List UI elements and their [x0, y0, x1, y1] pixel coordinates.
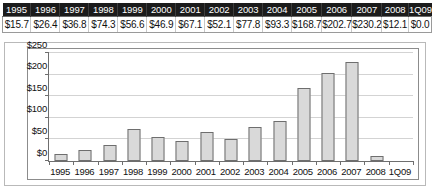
- table-value-cell: $12.1: [382, 17, 409, 33]
- table-value-cell: $93.3: [263, 17, 292, 33]
- table-header-cell: 1997: [60, 3, 89, 17]
- table-header-cell: 1999: [118, 3, 147, 17]
- bar[interactable]: [249, 127, 262, 161]
- table-header-cell: 2006: [322, 3, 352, 17]
- bar-slot: [195, 53, 219, 161]
- bar-slot: [292, 53, 316, 161]
- x-axis-tick-label: 2007: [341, 166, 361, 178]
- x-axis-tick: [98, 161, 99, 165]
- table-value-cell: $36.8: [60, 17, 89, 33]
- bar-slot: [219, 53, 243, 161]
- table-header-cell: 2003: [234, 3, 263, 17]
- x-axis-tick-label: 2002: [220, 166, 240, 178]
- y-axis-tick: [45, 117, 49, 118]
- bar-slot: [316, 53, 340, 161]
- bar[interactable]: [176, 141, 189, 161]
- x-axis-tick: [316, 161, 317, 165]
- bar[interactable]: [79, 150, 92, 161]
- x-axis-tick-label: 1995: [50, 166, 70, 178]
- x-axis-labels: 1995199619971998199920002001200220032004…: [48, 166, 412, 180]
- bar-slot: [146, 53, 170, 161]
- bar-slot: [73, 53, 97, 161]
- bar-slot: [267, 53, 291, 161]
- chart-plot-frame: $0$50$100$150$200$250 199519961997199819…: [27, 48, 419, 180]
- bar-series: [49, 53, 413, 161]
- x-axis-tick-label: 1Q09: [389, 166, 411, 178]
- plot-area: [48, 53, 413, 162]
- table-header-cell: 2004: [263, 3, 292, 17]
- plot-wrap: $0$50$100$150$200$250 199519961997199819…: [28, 49, 418, 179]
- x-axis-tick-label: 2006: [317, 166, 337, 178]
- bar-slot: [98, 53, 122, 161]
- bar[interactable]: [297, 88, 310, 161]
- x-axis-tick: [122, 161, 123, 165]
- table-value-cell: $26.4: [31, 17, 60, 33]
- y-axis-labels: $0$50$100$150$200$250: [7, 53, 47, 161]
- bar-slot: [122, 53, 146, 161]
- table-value-cell: $168.7: [292, 17, 322, 33]
- x-axis-tick-label: 1999: [147, 166, 167, 178]
- x-axis-tick: [292, 161, 293, 165]
- x-axis-tick-label: 1998: [123, 166, 143, 178]
- bar-slot: [364, 53, 388, 161]
- bar[interactable]: [200, 132, 213, 161]
- table-value-row: $15.7$26.4$36.8$74.3$56.6$46.9$67.1$52.1…: [3, 17, 432, 33]
- bar[interactable]: [370, 156, 383, 161]
- table-value-cell: $56.6: [118, 17, 147, 33]
- bar-slot: [340, 53, 364, 161]
- x-axis-tick-label: 2003: [244, 166, 264, 178]
- x-axis-tick-label: 2004: [269, 166, 289, 178]
- y-axis-tick-label: $0: [7, 147, 47, 157]
- bar[interactable]: [273, 121, 286, 161]
- bar-slot: [243, 53, 267, 161]
- y-axis-tick: [45, 95, 49, 96]
- bar[interactable]: [224, 139, 237, 162]
- x-axis-tick-label: 1996: [74, 166, 94, 178]
- table-value-cell: $46.9: [147, 17, 176, 33]
- table-value-cell: $52.1: [205, 17, 234, 33]
- table-value-cell: $15.7: [3, 17, 31, 33]
- y-axis-tick-label: $100: [7, 104, 47, 114]
- table-value-cell: $67.1: [176, 17, 205, 33]
- bar[interactable]: [103, 145, 116, 161]
- table-value-cell: $77.8: [234, 17, 263, 33]
- table-header-cell: 1995: [3, 3, 31, 17]
- y-axis-tick-label: $200: [7, 61, 47, 71]
- bar[interactable]: [55, 154, 68, 161]
- table-header-row: 1995199619971998199920002001200220032004…: [3, 3, 432, 17]
- y-axis-tick-label: $250: [7, 39, 47, 49]
- x-axis-tick: [413, 161, 414, 165]
- data-table: 1995199619971998199920002001200220032004…: [2, 3, 432, 33]
- chart-page: 1995199619971998199920002001200220032004…: [0, 0, 434, 192]
- bar[interactable]: [127, 129, 140, 161]
- bar[interactable]: [152, 137, 165, 161]
- bar[interactable]: [346, 62, 359, 161]
- x-axis-tick-label: 2000: [171, 166, 191, 178]
- table-header-cell: 2007: [352, 3, 382, 17]
- bar-slot: [389, 53, 413, 161]
- table-value-cell: $0.0: [408, 17, 431, 33]
- x-axis-tick: [340, 161, 341, 165]
- table-value-cell: $230.2: [352, 17, 382, 33]
- table-header-cell: 1Q09: [408, 3, 431, 17]
- x-axis-tick: [267, 161, 268, 165]
- x-axis-tick-label: 2001: [196, 166, 216, 178]
- x-axis-tick-label: 2005: [293, 166, 313, 178]
- x-axis-tick: [389, 161, 390, 165]
- y-axis-tick-label: $150: [7, 82, 47, 92]
- y-axis-tick: [45, 160, 49, 161]
- table-value-cell: $202.7: [322, 17, 352, 33]
- bar[interactable]: [322, 73, 335, 161]
- x-axis-tick-label: 1997: [99, 166, 119, 178]
- chart-outer-frame: $0$50$100$150$200$250 199519961997199819…: [4, 42, 426, 186]
- x-axis-tick: [146, 161, 147, 165]
- x-axis-tick: [364, 161, 365, 165]
- table-value-cell: $74.3: [89, 17, 118, 33]
- table-header-cell: 2002: [205, 3, 234, 17]
- table-header-cell: 2008: [382, 3, 409, 17]
- x-axis-tick: [219, 161, 220, 165]
- y-axis-tick: [45, 138, 49, 139]
- y-axis-tick-label: $50: [7, 125, 47, 135]
- y-axis-tick: [45, 52, 49, 53]
- x-axis-tick: [170, 161, 171, 165]
